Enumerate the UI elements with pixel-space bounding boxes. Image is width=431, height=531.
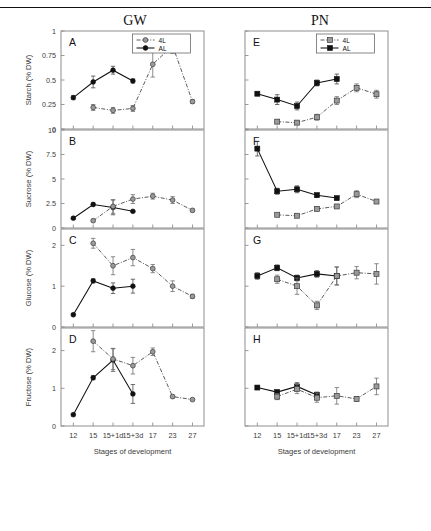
ytick-label-C-2: 2 [52,241,56,250]
xtick-label-D-5: 23 [169,431,177,440]
datapoint-C-AL-3[interactable] [130,284,135,289]
series-line-D-AL [73,360,133,415]
xtick-label-H-0: 12 [253,431,261,440]
datapoint-H-4L-4[interactable] [334,393,339,398]
datapoint-E-4L-2[interactable] [295,120,300,125]
datapoint-C-AL-0[interactable] [71,312,76,317]
datapoint-C-4L-1[interactable] [91,241,96,246]
datapoint-C-4L-2[interactable] [111,263,116,268]
datapoint-C-4L-4[interactable] [150,266,155,271]
xtick-label-H-5: 23 [353,431,361,440]
xtick-label-H-2: 15+1d [287,431,308,440]
datapoint-G-4L-5[interactable] [354,270,359,275]
datapoint-A-AL-2[interactable] [111,68,116,73]
legend-marker-4l-E [328,38,333,43]
datapoint-E-4L-5[interactable] [354,85,359,90]
datapoint-C-AL-2[interactable] [111,286,116,291]
datapoint-E-AL-0[interactable] [255,91,260,96]
datapoint-G-4L-3[interactable] [314,303,319,308]
series-line-A-4L [93,46,192,111]
datapoint-H-4L-6[interactable] [374,384,379,389]
datapoint-D-AL-3[interactable] [130,392,135,397]
datapoint-E-AL-3[interactable] [314,80,319,85]
ylabel-A: Starch (% DW) [24,54,33,105]
cut-off-header-line [0,0,431,9]
datapoint-C-AL-1[interactable] [91,278,96,283]
datapoint-E-AL-1[interactable] [275,97,280,102]
datapoint-F-4L-1[interactable] [275,212,280,217]
datapoint-A-4L-3[interactable] [130,106,135,111]
datapoint-E-4L-3[interactable] [314,115,319,120]
panel-letter-H: H [253,333,261,345]
datapoint-B-AL-0[interactable] [71,216,76,221]
panel-frame-F [245,130,388,228]
datapoint-G-AL-1[interactable] [275,265,280,270]
datapoint-D-4L-5[interactable] [170,394,175,399]
datapoint-F-4L-4[interactable] [334,204,339,209]
ytick-label-B-4: 10 [48,126,56,135]
datapoint-G-4L-1[interactable] [275,277,280,282]
datapoint-F-4L-2[interactable] [295,213,300,218]
datapoint-E-AL-2[interactable] [295,103,300,108]
datapoint-E-AL-4[interactable] [334,77,339,82]
datapoint-A-4L-6[interactable] [190,99,195,104]
datapoint-B-4L-4[interactable] [150,194,155,199]
datapoint-B-4L-1[interactable] [91,218,96,223]
datapoint-A-AL-3[interactable] [130,79,135,84]
top-rule [0,7,431,8]
datapoint-H-4L-3[interactable] [314,395,319,400]
datapoint-F-4L-5[interactable] [354,192,359,197]
datapoint-D-4L-1[interactable] [91,339,96,344]
series-line-B-AL [73,205,133,219]
datapoint-F-AL-3[interactable] [314,193,319,198]
datapoint-C-4L-3[interactable] [130,255,135,260]
panel-frame-H [245,328,388,426]
datapoint-A-AL-0[interactable] [71,95,76,100]
datapoint-E-4L-4[interactable] [334,98,339,103]
datapoint-H-4L-1[interactable] [275,394,280,399]
datapoint-A-4L-2[interactable] [111,108,116,113]
datapoint-E-4L-1[interactable] [275,119,280,124]
datapoint-D-4L-4[interactable] [150,349,155,354]
datapoint-G-4L-6[interactable] [374,271,379,276]
datapoint-A-AL-1[interactable] [91,80,96,85]
datapoint-D-4L-6[interactable] [190,397,195,402]
datapoint-D-AL-1[interactable] [91,375,96,380]
datapoint-G-4L-2[interactable] [295,284,300,289]
series-line-D-4L [93,341,192,399]
series-line-G-4L [277,273,376,306]
ytick-label-B-3: 7.5 [46,150,56,159]
datapoint-A-4L-4[interactable] [150,62,155,67]
datapoint-B-AL-1[interactable] [91,202,96,207]
series-line-C-AL [73,281,133,315]
panel-letter-B: B [69,135,76,147]
datapoint-C-4L-6[interactable] [190,294,195,299]
datapoint-B-4L-6[interactable] [190,208,195,213]
datapoint-D-AL-0[interactable] [71,412,76,417]
datapoint-A-4L-1[interactable] [91,105,96,110]
datapoint-H-4L-5[interactable] [354,396,359,401]
datapoint-H-AL-0[interactable] [255,385,260,390]
datapoint-H-4L-2[interactable] [295,387,300,392]
datapoint-B-4L-3[interactable] [130,197,135,202]
datapoint-F-AL-2[interactable] [295,187,300,192]
datapoint-B-AL-3[interactable] [130,209,135,214]
xtick-label-D-4: 17 [149,431,157,440]
datapoint-F-4L-3[interactable] [314,206,319,211]
datapoint-F-AL-0[interactable] [255,146,260,151]
datapoint-F-AL-4[interactable] [334,196,339,201]
datapoint-F-4L-6[interactable] [374,199,379,204]
series-line-E-4L [277,88,376,123]
datapoint-D-4L-2[interactable] [111,357,116,362]
datapoint-G-4L-4[interactable] [334,273,339,278]
column-header-pn: PN [240,13,400,29]
datapoint-G-AL-0[interactable] [255,273,260,278]
datapoint-F-AL-1[interactable] [275,189,280,194]
datapoint-G-AL-3[interactable] [314,271,319,276]
panel-frame-C [61,229,204,327]
datapoint-B-4L-2[interactable] [111,204,116,209]
datapoint-D-4L-3[interactable] [130,363,135,368]
datapoint-B-4L-5[interactable] [170,198,175,203]
datapoint-E-4L-6[interactable] [374,92,379,97]
datapoint-C-4L-5[interactable] [170,284,175,289]
